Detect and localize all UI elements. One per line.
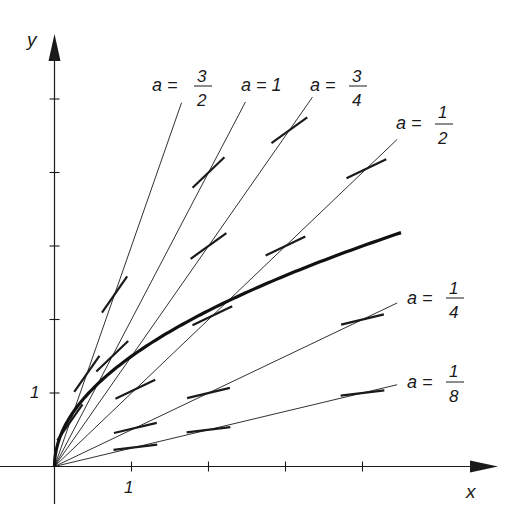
label-a-1-8: a = 1 8 [407, 362, 464, 406]
slope-mark-a-1-8 [341, 390, 385, 395]
label-a-3-2: a = 3 2 [152, 67, 212, 110]
slope-mark-a-1-2 [346, 159, 386, 178]
x-axis-arrow-icon [470, 461, 498, 473]
label-a-1-2: a = 1 2 [396, 103, 453, 148]
y-axis-label: y [25, 29, 38, 50]
svg-text:a =: a = [310, 75, 336, 95]
y-axis-arrow-icon [49, 34, 61, 61]
slope-mark-a-1-4 [187, 388, 230, 398]
numerator: 3 [197, 67, 207, 86]
numerator: 3 [352, 67, 362, 86]
svg-text:a =: a = [396, 113, 422, 133]
axes: x y 1 1 [0, 29, 498, 504]
slope-mark-a-3-2 [102, 276, 127, 312]
slope-mark-a-1-8 [187, 427, 231, 432]
denominator: 2 [196, 91, 207, 110]
svg-text:a =: a = [152, 75, 178, 95]
x-tick-label-1: 1 [124, 478, 133, 497]
label-a-1: a = 1 [241, 75, 282, 95]
isocline-a-1 [55, 102, 246, 467]
isocline-a-1-8 [55, 385, 398, 467]
isocline-a-1-4 [55, 303, 398, 467]
slope-mark-a-1 [96, 341, 128, 371]
label-a-3-4: a = 3 4 [310, 67, 367, 110]
svg-text:a = 1: a = 1 [241, 75, 282, 95]
numerator: 1 [449, 279, 458, 298]
denominator: 4 [449, 303, 458, 322]
isocline-lines [55, 97, 398, 466]
denominator: 2 [437, 129, 448, 148]
denominator: 4 [352, 91, 361, 110]
slope-mark-a-3-4 [191, 233, 227, 259]
slope-marks [57, 117, 386, 449]
slope-mark-a-1-4 [341, 314, 384, 324]
x-axis-label: x [465, 481, 477, 502]
y-tick-label-1: 1 [30, 383, 39, 402]
numerator: 1 [449, 362, 458, 381]
slope-mark-a-1-4 [114, 423, 157, 433]
denominator: 8 [449, 387, 459, 406]
svg-text:a =: a = [407, 372, 433, 392]
slope-mark-a-1-2 [115, 380, 155, 399]
slope-mark-a-1-8 [114, 445, 158, 450]
slope-mark-a-3-4 [271, 117, 307, 143]
svg-text:a =: a = [407, 288, 433, 308]
slope-mark-a-1 [193, 157, 225, 187]
slope-field-diagram: x y 1 1 a = 3 2 a = 1 a = 3 4 a = 1 2 a … [0, 0, 514, 527]
slope-mark-a-1-2 [266, 237, 306, 256]
label-a-1-4: a = 1 4 [407, 279, 464, 322]
solution-curve [55, 233, 402, 467]
numerator: 1 [438, 103, 447, 122]
